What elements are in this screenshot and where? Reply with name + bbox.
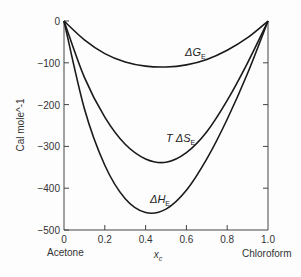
y-tick-label: −100: [37, 58, 60, 69]
x-ticks: 00.20.40.60.81.0: [61, 225, 275, 245]
y-tick-label: −300: [37, 141, 60, 152]
y-axis-label: Cal mole^-1: [15, 98, 26, 151]
label-delta-g: ΔGE: [184, 46, 206, 60]
y-tick-label: −400: [37, 183, 60, 194]
acetone-label: Acetone: [47, 247, 84, 258]
label-delta-h: ΔHE: [149, 193, 170, 207]
x-axis-label: xc: [153, 249, 163, 262]
curve-delta-h: [64, 21, 268, 213]
x-tick-label: 1.0: [261, 234, 275, 245]
curves: [64, 21, 268, 213]
label-t-delta-s: T ΔSE: [166, 132, 196, 146]
y-tick-label: −500: [37, 225, 60, 236]
chloroform-label: Chloroform: [242, 248, 291, 259]
y-tick-label: 0: [54, 16, 60, 27]
curve-delta-g: [64, 21, 268, 67]
x-tick-label: 0.2: [98, 234, 112, 245]
x-tick-label: 0.6: [179, 234, 193, 245]
x-tick-label: 0: [61, 234, 67, 245]
chart-canvas: 0−100−200−300−400−500 00.20.40.60.81.0 Δ…: [0, 0, 301, 277]
x-tick-label: 0.4: [139, 234, 153, 245]
x-tick-label: 0.8: [220, 234, 234, 245]
y-tick-label: −200: [37, 100, 60, 111]
